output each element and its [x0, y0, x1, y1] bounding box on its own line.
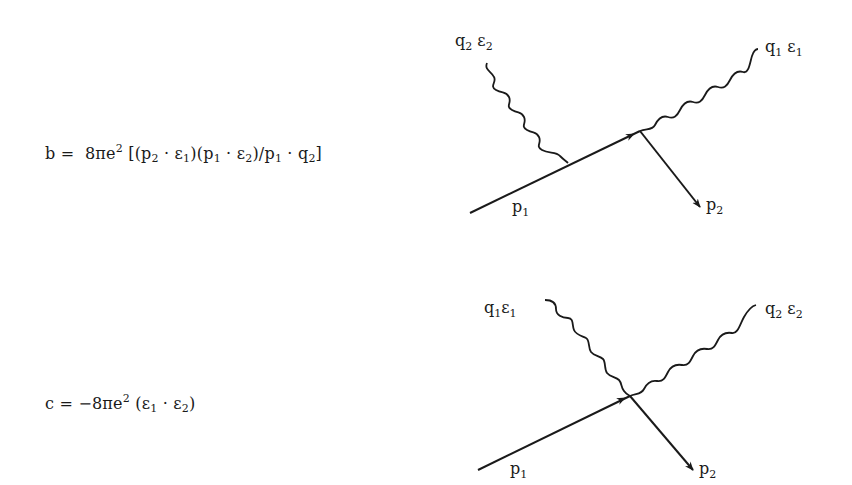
- label-electron-in: p1: [510, 459, 527, 481]
- electron-line-incoming: [470, 131, 640, 213]
- feynman-diagrams: q2 ε2 q1 ε1 p1 p2 q1ε1 q2 ε2 p1 p2: [0, 0, 852, 485]
- photon-line-outgoing: [640, 49, 758, 131]
- electron-line-outgoing: [630, 396, 693, 470]
- electron-line-outgoing: [640, 131, 700, 207]
- label-photon-out: q1 ε1: [765, 37, 803, 59]
- diagram-bottom: q1ε1 q2 ε2 p1 p2: [478, 298, 803, 481]
- photon-line-outgoing: [630, 305, 756, 396]
- label-electron-out: p2: [706, 195, 723, 217]
- label-photon-out: q2 ε2: [765, 299, 803, 321]
- label-electron-in: p1: [512, 197, 529, 219]
- diagram-top: q2 ε2 q1 ε1 p1 p2: [455, 31, 803, 219]
- label-electron-out: p2: [699, 459, 716, 481]
- label-photon-in: q1ε1: [484, 298, 517, 320]
- electron-line-incoming: [478, 396, 630, 470]
- photon-line-incoming: [545, 300, 630, 396]
- label-photon-in: q2 ε2: [455, 31, 493, 53]
- photon-line-incoming: [486, 63, 568, 163]
